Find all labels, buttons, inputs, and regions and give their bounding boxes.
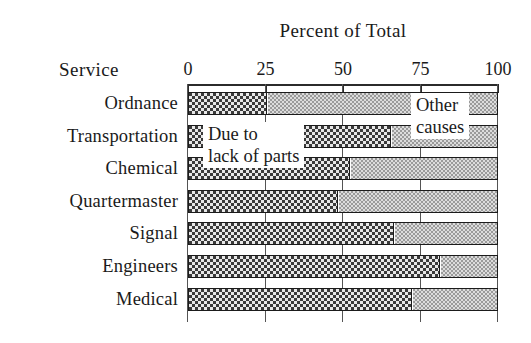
category-axis-title: Service (0, 59, 178, 81)
category-label-engineers: Engineers (0, 256, 178, 277)
stacked-bar-chart: Percent of Total Service 0255075100 Ordn… (0, 0, 531, 343)
x-tick-label-0: 0 (184, 59, 193, 80)
bar-row-quartermaster (188, 190, 498, 213)
segment-other-engineers (441, 256, 497, 277)
category-label-ordnance: Ordnance (0, 93, 178, 114)
segment-other-quartermaster (339, 191, 497, 212)
segment-other-chemical (351, 158, 497, 179)
bar-row-engineers (188, 255, 498, 278)
bar-row-medical (188, 288, 498, 311)
category-label-chemical: Chemical (0, 158, 178, 179)
annotation-parts-line1: Due to (208, 123, 299, 145)
x-tick-label-75: 75 (412, 59, 430, 80)
x-tick-label-25: 25 (257, 59, 275, 80)
segment-parts-ordnance (189, 93, 267, 114)
annotation-other-causes: Other causes (411, 93, 469, 139)
annotation-other-line2: causes (416, 116, 464, 138)
segment-parts-quartermaster (189, 191, 338, 212)
category-label-quartermaster: Quartermaster (0, 191, 178, 212)
segment-other-signal (395, 223, 497, 244)
category-label-medical: Medical (0, 289, 178, 310)
x-tick-label-50: 50 (334, 59, 352, 80)
annotation-parts-line2: lack of parts (208, 145, 299, 167)
bar-row-signal (188, 222, 498, 245)
segment-other-medical (413, 289, 497, 310)
category-label-transportation: Transportation (0, 126, 178, 147)
segment-parts-engineers (189, 256, 440, 277)
annotation-due-to-lack-of-parts: Due to lack of parts (203, 122, 304, 168)
chart-title: Percent of Total (188, 20, 498, 42)
category-label-signal: Signal (0, 223, 178, 244)
segment-parts-signal (189, 223, 394, 244)
annotation-other-line1: Other (416, 94, 464, 116)
segment-parts-medical (189, 289, 412, 310)
x-tick-label-100: 100 (485, 59, 512, 80)
